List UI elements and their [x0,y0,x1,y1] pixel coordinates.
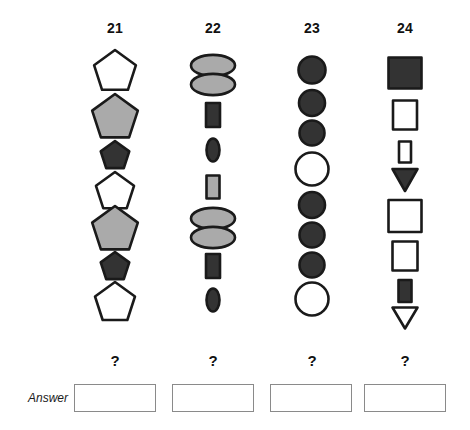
answer-box-22[interactable] [172,384,254,412]
puzzle-canvas: 21 22 23 24 ? ? ? ? Answer [0,0,470,430]
question-mark-21: ? [95,352,135,369]
question-mark-24: ? [385,352,425,369]
answer-box-21[interactable] [74,384,156,412]
question-mark-22: ? [193,352,233,369]
question-mark-23: ? [292,352,332,369]
answer-box-23[interactable] [270,384,352,412]
answer-box-24[interactable] [364,384,446,412]
